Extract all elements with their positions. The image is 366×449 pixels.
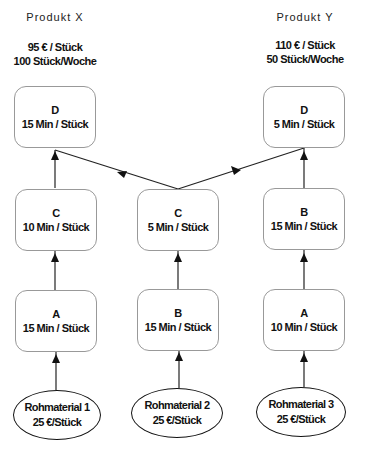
product-y-info: 110 € / Stück 50 Stück/Woche	[235, 38, 366, 66]
step-name: A	[300, 306, 307, 320]
raw-material-cost: 25 €/Stück	[153, 413, 201, 428]
step-time: 15 Min / Stück	[22, 117, 88, 131]
raw-material-name: Rohmaterial 2	[145, 398, 210, 413]
step-name: B	[300, 205, 307, 219]
step-box-y-a: A 10 Min / Stück	[263, 289, 345, 351]
raw-material-cost: 25 €/Stück	[33, 415, 81, 430]
raw-material-3: Rohmaterial 3 25 €/Stück	[256, 387, 346, 437]
step-box-y-d: D 5 Min / Stück	[263, 86, 345, 148]
product-y-title: Produkt Y	[245, 11, 365, 23]
raw-material-cost: 25 €/Stück	[277, 412, 325, 427]
product-x-title: Produkt X	[0, 11, 115, 23]
step-time: 10 Min / Stück	[23, 220, 89, 234]
step-box-x-a: A 15 Min / Stück	[15, 290, 97, 352]
product-x-info: 95 € / Stück 100 Stück/Woche	[0, 40, 125, 68]
raw-material-name: Rohmaterial 3	[269, 397, 334, 412]
product-y-demand: 50 Stück/Woche	[235, 52, 366, 66]
step-time: 15 Min / Stück	[23, 321, 89, 335]
step-box-m-b: B 15 Min / Stück	[137, 289, 219, 351]
product-x-demand: 100 Stück/Woche	[0, 54, 125, 68]
step-time: 10 Min / Stück	[271, 320, 337, 334]
step-name: C	[174, 206, 181, 220]
step-name: D	[51, 103, 58, 117]
step-box-y-b: B 15 Min / Stück	[263, 188, 345, 250]
step-name: A	[52, 307, 59, 321]
step-time: 15 Min / Stück	[271, 219, 337, 233]
raw-material-1: Rohmaterial 1 25 €/Stück	[13, 390, 101, 440]
product-x-price: 95 € / Stück	[0, 40, 125, 54]
step-name: D	[300, 103, 307, 117]
raw-material-2: Rohmaterial 2 25 €/Stück	[131, 388, 223, 438]
step-time: 5 Min / Stück	[148, 220, 209, 234]
step-box-m-c: C 5 Min / Stück	[137, 189, 219, 251]
step-time: 15 Min / Stück	[145, 320, 211, 334]
step-name: B	[174, 306, 181, 320]
step-time: 5 Min / Stück	[274, 117, 335, 131]
raw-material-name: Rohmaterial 1	[25, 400, 90, 415]
step-name: C	[52, 206, 59, 220]
step-box-x-c: C 10 Min / Stück	[15, 189, 97, 251]
step-box-x-d: D 15 Min / Stück	[14, 86, 96, 148]
product-y-price: 110 € / Stück	[235, 38, 366, 52]
